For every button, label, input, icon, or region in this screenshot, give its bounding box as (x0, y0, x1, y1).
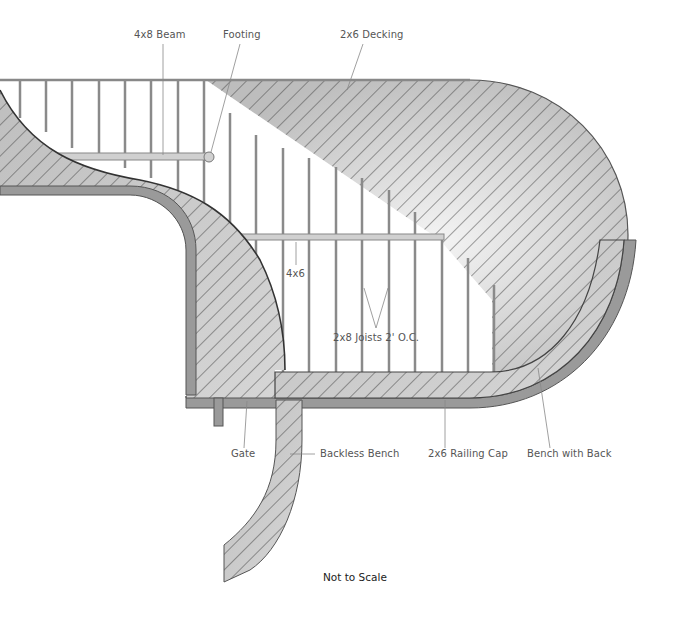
gate-post (214, 398, 223, 426)
left-curved-bench (0, 90, 285, 400)
label-decking: 2x6 Decking (340, 29, 404, 40)
label-joists: 2x8 Joists 2' O.C. (333, 332, 419, 343)
label-bench-with-back: Bench with Back (527, 448, 612, 459)
label-footing: Footing (223, 29, 261, 40)
deck-plan-drawing (0, 0, 676, 627)
backless-bench (224, 400, 302, 582)
label-post: 4x6 (286, 268, 305, 279)
cross-beam-4x6 (230, 234, 444, 240)
not-to-scale-note: Not to Scale (323, 571, 387, 583)
label-gate: Gate (231, 448, 255, 459)
footing-icon (204, 152, 214, 162)
label-beam: 4x8 Beam (134, 29, 186, 40)
label-railing-cap: 2x6 Railing Cap (428, 448, 508, 459)
label-backless-bench: Backless Bench (320, 448, 399, 459)
